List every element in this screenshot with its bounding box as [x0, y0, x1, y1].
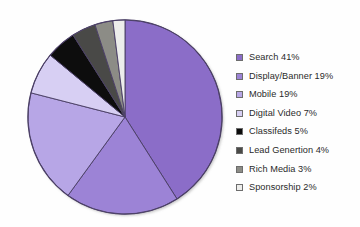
legend-item: Lead Genertion 4%	[236, 142, 360, 159]
pie-plot-area	[0, 0, 232, 227]
legend-item-label: Search 41%	[249, 52, 300, 63]
legend-item: Sponsorship 2%	[236, 179, 360, 196]
legend-swatch-icon	[236, 128, 243, 135]
legend-item-label: Rich Media 3%	[249, 164, 311, 175]
pie-slice-group	[28, 20, 222, 214]
legend-swatch-icon	[236, 184, 243, 191]
legend-item-label: Lead Genertion 4%	[249, 145, 329, 156]
legend-swatch-icon	[236, 54, 243, 61]
pie-svg	[0, 0, 232, 227]
legend-swatch-icon	[236, 166, 243, 173]
legend-item: Classifeds 5%	[236, 123, 360, 140]
legend-item-label: Digital Video 7%	[249, 108, 317, 119]
legend-item-label: Classifeds 5%	[249, 126, 308, 137]
legend-item: Digital Video 7%	[236, 105, 360, 122]
legend-swatch-icon	[236, 110, 243, 117]
legend-swatch-icon	[236, 73, 243, 80]
legend-item: Search 41%	[236, 49, 360, 66]
legend-item: Mobile 19%	[236, 86, 360, 103]
legend-swatch-icon	[236, 147, 243, 154]
legend-swatch-icon	[236, 91, 243, 98]
chart-legend: Search 41%Display/Banner 19%Mobile 19%Di…	[236, 49, 360, 198]
legend-item: Rich Media 3%	[236, 161, 360, 178]
pie-chart-figure: Search 41%Display/Banner 19%Mobile 19%Di…	[0, 0, 360, 227]
legend-item-label: Mobile 19%	[249, 89, 298, 100]
legend-item: Display/Banner 19%	[236, 68, 360, 85]
legend-item-label: Sponsorship 2%	[249, 182, 317, 193]
legend-item-label: Display/Banner 19%	[249, 71, 333, 82]
